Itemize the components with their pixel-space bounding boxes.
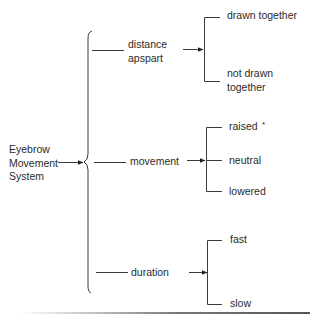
distance-label-line: distance [128, 38, 167, 52]
raised-label: raised [229, 120, 258, 134]
root-label-line: Movement [9, 157, 58, 171]
distance-label: distance apspart [128, 38, 167, 65]
duration-bracket [208, 241, 223, 305]
fast-label: fast [230, 233, 247, 247]
lowered-label: lowered [229, 185, 266, 199]
neutral-label: neutral [229, 154, 261, 168]
slow-label: slow [230, 297, 251, 311]
distance-label-line: apspart [128, 52, 167, 66]
root-label-line: Eyebrow [9, 143, 58, 157]
movement-label: movement [130, 155, 179, 169]
not-drawn-together-label: not drawn together [227, 67, 273, 94]
not-drawn-together-line: together [227, 81, 273, 95]
drawn-together-label: drawn together [227, 9, 297, 23]
root-label-line: System [9, 170, 58, 184]
root-brace [84, 31, 92, 293]
root-label: Eyebrow Movement System [9, 143, 58, 184]
bottom-rule [20, 312, 310, 314]
raised-mark: * [262, 118, 265, 132]
duration-label: duration [131, 266, 169, 280]
not-drawn-together-line: not drawn [227, 67, 273, 81]
movement-bracket [207, 128, 223, 192]
distance-bracket [205, 18, 221, 82]
